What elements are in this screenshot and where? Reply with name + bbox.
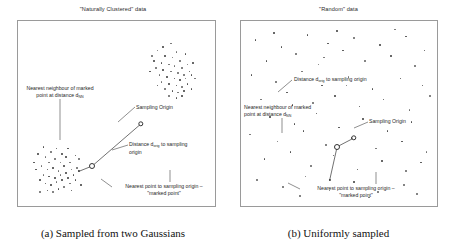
dist-label-prefix: Distance d <box>294 76 319 82</box>
dist-label-line2: origin <box>129 149 142 155</box>
caption-a: (a) Sampled from two Gaussians <box>0 227 226 239</box>
dist-label-suffix: to sampling <box>160 141 188 147</box>
connector-line <box>330 147 337 180</box>
marked-label-line2: "marked point" <box>147 190 181 196</box>
nn-label-subscript: NN <box>286 114 291 118</box>
panel-a-annotation-lines <box>18 21 215 206</box>
nn-label-line1: Nearest neighbour of marked <box>26 85 93 91</box>
nn-label-line2: point at distance d <box>36 92 78 98</box>
marked-label-line2: "marked point" <box>339 192 373 198</box>
marked-label-line1: Nearest point to sampling origin – <box>125 183 202 189</box>
nn-label-line1: Nearest neighbour of marked <box>244 104 311 110</box>
panel-a-distance-origin-label: Distance dorig to sampling origin <box>129 141 219 155</box>
panel-b-nearest-neighbour-label: Nearest neighbour of marked point at dis… <box>244 104 311 118</box>
panel-a-marked-point-label: Nearest point to sampling origin – "mark… <box>110 183 218 196</box>
panel-a-title: "Naturally Clustered" data <box>0 6 226 12</box>
panel-a-plot-frame <box>17 20 216 207</box>
panel-b-marked-point-marker <box>334 144 340 150</box>
dist-label-subscript: orig <box>154 144 160 148</box>
panel-a-marked-point-marker <box>89 163 95 169</box>
dist-label-prefix: Distance d <box>129 141 154 147</box>
panel-b: "Random" data Distance dorig to sampling… <box>226 0 451 212</box>
panel-b-sampling-origin-label: Sampling Origin <box>369 118 406 125</box>
nn-label-subscript: NN <box>78 95 83 99</box>
caption-b: (b) Uniformly sampled <box>226 227 451 239</box>
panel-b-title: "Random" data <box>226 6 451 12</box>
marked-label-line1: Nearest point to sampling origin – <box>317 185 394 191</box>
panel-a: "Naturally Clustered" data Nearest neigh… <box>0 0 226 212</box>
panel-b-marked-point-label: Nearest point to sampling origin – "mark… <box>298 185 414 198</box>
figure-container: "Naturally Clustered" data Nearest neigh… <box>0 0 451 245</box>
nn-label-line2: point at distance d <box>244 111 286 117</box>
dist-label-subscript: orig <box>319 79 325 83</box>
dist-label-suffix: to sampling origin <box>325 76 367 82</box>
panel-a-sampling-origin-label: Sampling Origin <box>136 104 173 111</box>
panel-b-distance-origin-label: Distance dorig to sampling origin <box>294 76 367 84</box>
panel-a-nearest-neighbour-label: Nearest neighbour of marked point at dis… <box>8 85 112 99</box>
